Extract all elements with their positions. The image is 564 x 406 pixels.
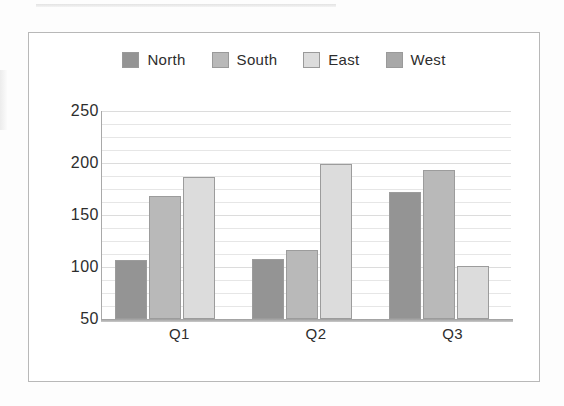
y-axis-tick-label: 100	[71, 258, 99, 276]
chart-frame: NorthSouthEastWest 25020015010050 Q1Q2Q3	[28, 32, 540, 382]
x-axis-tick-label: Q2	[306, 325, 327, 342]
x-axis-tick-labels: Q1Q2Q3	[101, 325, 511, 349]
y-axis-tick-label: 250	[71, 102, 99, 120]
x-axis-baseline	[101, 319, 513, 322]
y-axis-tick-label: 200	[71, 154, 99, 172]
bar-q3-east	[457, 266, 489, 319]
bar-q3-south	[423, 170, 455, 319]
scan-artifact-left-mark	[0, 70, 7, 130]
bar-q2-east	[320, 164, 352, 319]
x-axis-tick-label: Q1	[169, 325, 190, 342]
y-axis-tick-label: 50	[80, 310, 99, 328]
bar-q2-south	[286, 250, 318, 319]
y-axis-tick-labels: 25020015010050	[47, 111, 99, 319]
bar-q1-south	[149, 196, 181, 319]
scan-artifact-top-line	[36, 4, 336, 7]
bar-q1-east	[183, 177, 215, 320]
bar-q2-north	[252, 259, 284, 319]
bars-layer	[101, 111, 511, 319]
bar-q3-north	[389, 192, 421, 319]
y-axis-tick-label: 150	[71, 206, 99, 224]
x-axis-tick-label: Q3	[442, 325, 463, 342]
plot-wrapper: 25020015010050 Q1Q2Q3	[29, 33, 541, 383]
bar-q1-north	[115, 260, 147, 319]
